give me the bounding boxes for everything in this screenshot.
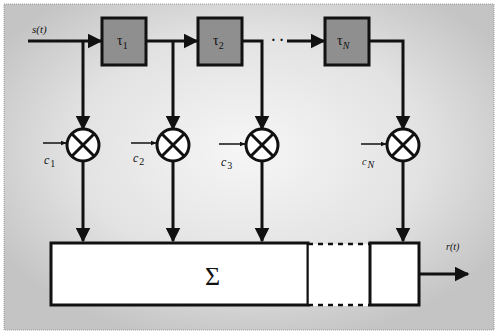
summer-symbol: Σ bbox=[205, 262, 220, 291]
input-label: s(t) bbox=[32, 23, 47, 36]
tapped-delay-line-diagram: s(t) · · τ1 τ2 τN bbox=[0, 0, 499, 335]
multiplier-1 bbox=[67, 129, 99, 161]
multiplier-3 bbox=[246, 129, 278, 161]
ellipsis: · · bbox=[271, 33, 284, 48]
delay-block-1: τ1 bbox=[102, 18, 146, 65]
multiplier-N bbox=[387, 129, 419, 161]
summer-block: Σ bbox=[51, 243, 419, 306]
delay-block-2: τ2 bbox=[198, 18, 242, 65]
multiplier-2 bbox=[157, 129, 189, 161]
delay-block-N: τN bbox=[325, 18, 369, 65]
output-label: r(t) bbox=[446, 241, 460, 253]
